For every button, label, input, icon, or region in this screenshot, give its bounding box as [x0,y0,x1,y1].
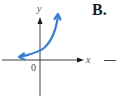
x-axis-label: x [85,54,91,65]
next-panel-axis-fragment [104,60,116,61]
y-axis-label: y [36,3,42,14]
y-axis-arrow-icon [38,17,43,24]
x-axis-arrow-icon [77,58,84,63]
origin-label: 0 [31,62,36,73]
panel-label: B. [92,1,107,19]
